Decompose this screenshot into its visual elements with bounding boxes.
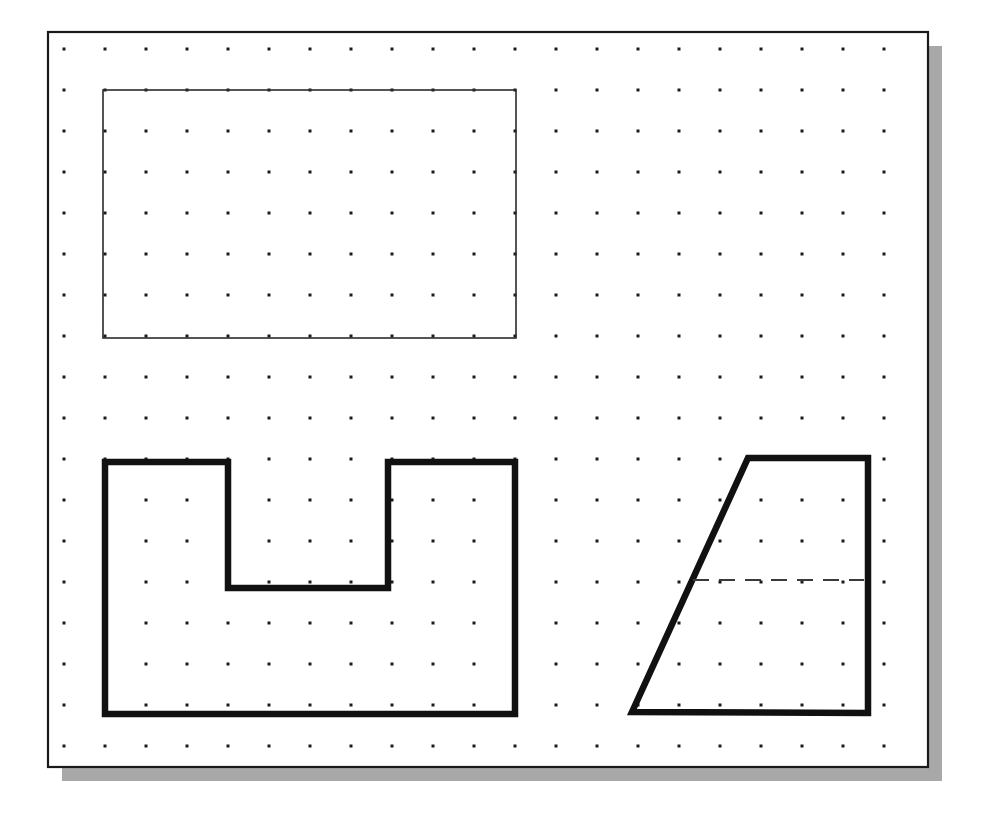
grid-dot <box>227 212 230 215</box>
grid-dot <box>63 417 66 420</box>
grid-dot <box>268 212 271 215</box>
grid-dot <box>514 417 517 420</box>
grid-dot <box>63 499 66 502</box>
grid-dot <box>309 745 312 748</box>
grid-dot <box>801 294 804 297</box>
grid-dot <box>842 540 845 543</box>
grid-dot <box>186 540 189 543</box>
drawing-sheet[interactable] <box>48 32 928 767</box>
screen-root <box>0 0 983 819</box>
grid-dot <box>350 581 353 584</box>
grid-dot <box>63 622 66 625</box>
grid-dot <box>678 130 681 133</box>
grid-dot <box>145 171 148 174</box>
grid-dot <box>637 417 640 420</box>
grid-dot <box>309 622 312 625</box>
grid-dot <box>678 376 681 379</box>
grid-dot <box>760 663 763 666</box>
grid-dot <box>350 294 353 297</box>
grid-dot <box>473 376 476 379</box>
grid-dot <box>801 663 804 666</box>
grid-dot <box>760 171 763 174</box>
grid-dot <box>186 704 189 707</box>
grid-dot <box>842 499 845 502</box>
grid-dot <box>268 130 271 133</box>
drawing-canvas-svg[interactable] <box>0 0 983 819</box>
grid-dot <box>514 745 517 748</box>
grid-dot <box>678 417 681 420</box>
grid-dot <box>309 335 312 338</box>
grid-dot <box>309 458 312 461</box>
grid-dot <box>842 745 845 748</box>
grid-dot <box>842 622 845 625</box>
grid-dot <box>883 212 886 215</box>
grid-dot <box>145 253 148 256</box>
grid-dot <box>883 581 886 584</box>
grid-dot <box>760 212 763 215</box>
grid-dot <box>719 48 722 51</box>
grid-dot <box>186 499 189 502</box>
grid-dot <box>801 622 804 625</box>
grid-dot <box>555 376 558 379</box>
grid-dot <box>432 417 435 420</box>
grid-dot <box>678 745 681 748</box>
grid-dot <box>309 294 312 297</box>
grid-dot <box>63 48 66 51</box>
grid-dot <box>268 171 271 174</box>
grid-dot <box>63 212 66 215</box>
grid-dot <box>186 130 189 133</box>
grid-dot <box>883 499 886 502</box>
grid-dot <box>883 376 886 379</box>
grid-dot <box>760 89 763 92</box>
grid-dot <box>186 581 189 584</box>
grid-dot <box>842 335 845 338</box>
grid-dot <box>350 48 353 51</box>
grid-dot <box>473 745 476 748</box>
grid-dot <box>555 253 558 256</box>
grid-dot <box>268 376 271 379</box>
grid-dot <box>678 663 681 666</box>
grid-dot <box>473 704 476 707</box>
grid-dot <box>186 294 189 297</box>
grid-dot <box>883 253 886 256</box>
grid-dot <box>637 499 640 502</box>
grid-dot <box>596 130 599 133</box>
grid-dot <box>145 663 148 666</box>
grid-dot <box>760 294 763 297</box>
grid-dot <box>596 417 599 420</box>
grid-dot <box>268 294 271 297</box>
grid-dot <box>268 581 271 584</box>
grid-dot <box>473 48 476 51</box>
grid-dot <box>719 89 722 92</box>
grid-dot <box>883 663 886 666</box>
grid-dot <box>801 171 804 174</box>
grid-dot <box>104 253 107 256</box>
grid-dot <box>268 335 271 338</box>
grid-dot <box>637 622 640 625</box>
grid-dot <box>555 622 558 625</box>
grid-dot <box>596 458 599 461</box>
grid-dot <box>801 540 804 543</box>
grid-dot <box>309 212 312 215</box>
grid-dot <box>719 294 722 297</box>
grid-dot <box>719 499 722 502</box>
grid-dot <box>473 130 476 133</box>
grid-dot <box>596 48 599 51</box>
grid-dot <box>637 663 640 666</box>
grid-dot <box>145 704 148 707</box>
grid-dot <box>63 335 66 338</box>
grid-dot <box>637 294 640 297</box>
grid-dot <box>391 663 394 666</box>
grid-dot <box>227 335 230 338</box>
grid-dot <box>227 376 230 379</box>
grid-dot <box>432 745 435 748</box>
grid-dot <box>596 171 599 174</box>
grid-dot <box>801 499 804 502</box>
grid-dot <box>555 499 558 502</box>
grid-dot <box>760 335 763 338</box>
grid-dot <box>719 376 722 379</box>
grid-dot <box>186 417 189 420</box>
grid-dot <box>801 212 804 215</box>
grid-dot <box>678 171 681 174</box>
grid-dot <box>719 171 722 174</box>
